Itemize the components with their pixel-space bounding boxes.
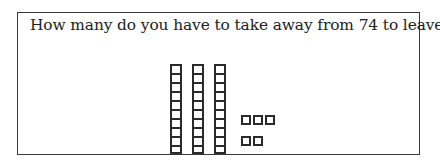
- rod-cell: [172, 93, 180, 102]
- ones-unit: [253, 136, 263, 146]
- rod-cell: [194, 102, 202, 111]
- rod-cell: [194, 138, 202, 147]
- rod-cell: [216, 129, 224, 138]
- ones-unit: [241, 115, 251, 125]
- rod-cell: [216, 75, 224, 84]
- rod-cell: [194, 129, 202, 138]
- rod-cell: [216, 93, 224, 102]
- rod-cell: [172, 66, 180, 75]
- rod-cell: [172, 84, 180, 93]
- rod-cell: [194, 75, 202, 84]
- rod-cell: [194, 147, 202, 156]
- rod-cell: [172, 147, 180, 156]
- tens-rod: [214, 64, 226, 154]
- rod-cell: [216, 111, 224, 120]
- tens-rod: [192, 64, 204, 154]
- rod-cell: [172, 111, 180, 120]
- rod-cell: [194, 111, 202, 120]
- rod-cell: [216, 138, 224, 147]
- tens-rod: [170, 64, 182, 154]
- rod-cell: [194, 93, 202, 102]
- rod-cell: [194, 120, 202, 129]
- rod-cell: [172, 138, 180, 147]
- rod-cell: [172, 75, 180, 84]
- rod-cell: [216, 84, 224, 93]
- rod-cell: [172, 129, 180, 138]
- rod-cell: [194, 84, 202, 93]
- ones-unit: [265, 115, 275, 125]
- rod-cell: [172, 120, 180, 129]
- ones-unit: [241, 136, 251, 146]
- rod-cell: [172, 102, 180, 111]
- ones-unit: [253, 115, 263, 125]
- rod-cell: [216, 102, 224, 111]
- rod-cell: [216, 120, 224, 129]
- question-text: How many do you have to take away from 7…: [30, 16, 420, 34]
- rod-cell: [216, 66, 224, 75]
- rod-cell: [216, 147, 224, 156]
- rod-cell: [194, 66, 202, 75]
